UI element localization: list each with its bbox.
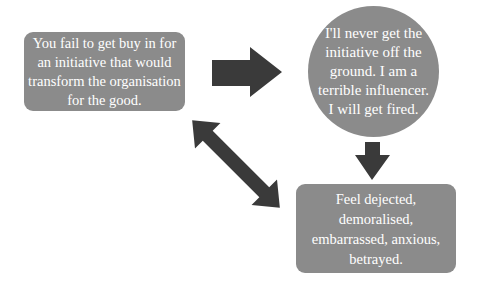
thought-text: I'll never get the initiative off the gr… <box>314 24 433 119</box>
feeling-box: Feel dejected, demoralised, embarrassed,… <box>296 184 456 273</box>
right-arrow-icon <box>212 47 282 97</box>
trigger-box: You fail to get buy in for an initiative… <box>24 32 185 111</box>
feeling-text: Feel dejected, demoralised, embarrassed,… <box>302 189 450 269</box>
thought-circle: I'll never get the initiative off the gr… <box>308 6 439 137</box>
double-arrow-icon <box>179 107 292 220</box>
trigger-text: You fail to get buy in for an initiative… <box>28 34 181 110</box>
down-arrow-icon <box>355 142 390 180</box>
